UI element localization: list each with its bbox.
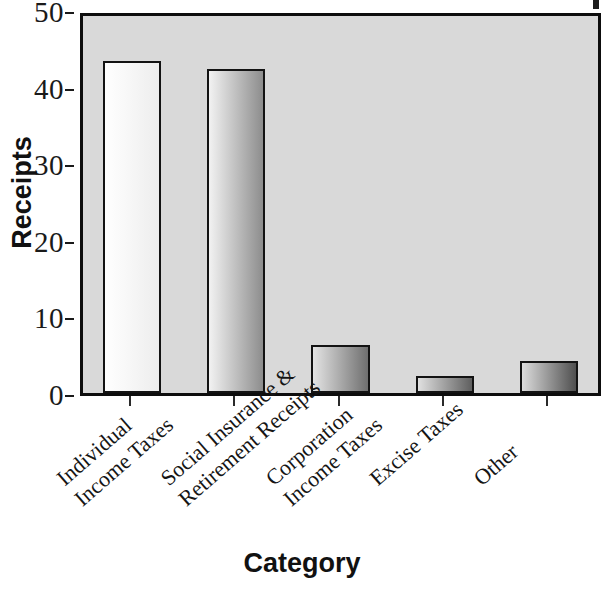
y-axis-tick-mark bbox=[65, 165, 74, 167]
y-axis-tick-mark bbox=[65, 318, 74, 320]
y-axis-tick-mark bbox=[65, 12, 74, 14]
x-axis-tick-label-line: Excise Taxes bbox=[364, 396, 467, 490]
bar bbox=[416, 376, 474, 393]
y-axis-tick-label: 40 bbox=[14, 75, 64, 104]
y-axis-title: Receipts bbox=[7, 128, 38, 258]
y-axis-tick-mark bbox=[65, 395, 74, 397]
y-axis-tick-label: 0 bbox=[14, 381, 64, 410]
bar bbox=[311, 345, 369, 393]
y-axis-ticks: 01020304050 bbox=[0, 0, 74, 590]
x-axis-tick-label: Excise Taxes bbox=[364, 396, 468, 492]
x-axis-title: Category bbox=[0, 548, 604, 579]
scan-artifact-speck bbox=[593, 0, 599, 9]
y-axis-tick-label: 10 bbox=[14, 304, 64, 333]
bar bbox=[520, 361, 578, 393]
x-axis-tick-label-line: Other bbox=[469, 439, 523, 491]
bars-container bbox=[83, 16, 598, 393]
y-axis-tick-label: 50 bbox=[14, 0, 64, 27]
y-axis-tick-mark bbox=[65, 242, 74, 244]
chart-figure: 01020304050 Receipts IndividualIncome Ta… bbox=[0, 0, 604, 590]
bar bbox=[207, 69, 265, 393]
plot-area bbox=[80, 13, 601, 396]
bar bbox=[103, 61, 161, 393]
y-axis-tick-mark bbox=[65, 89, 74, 91]
x-axis-tick-mark bbox=[546, 396, 548, 406]
x-axis-tick-label: Other bbox=[468, 438, 524, 491]
